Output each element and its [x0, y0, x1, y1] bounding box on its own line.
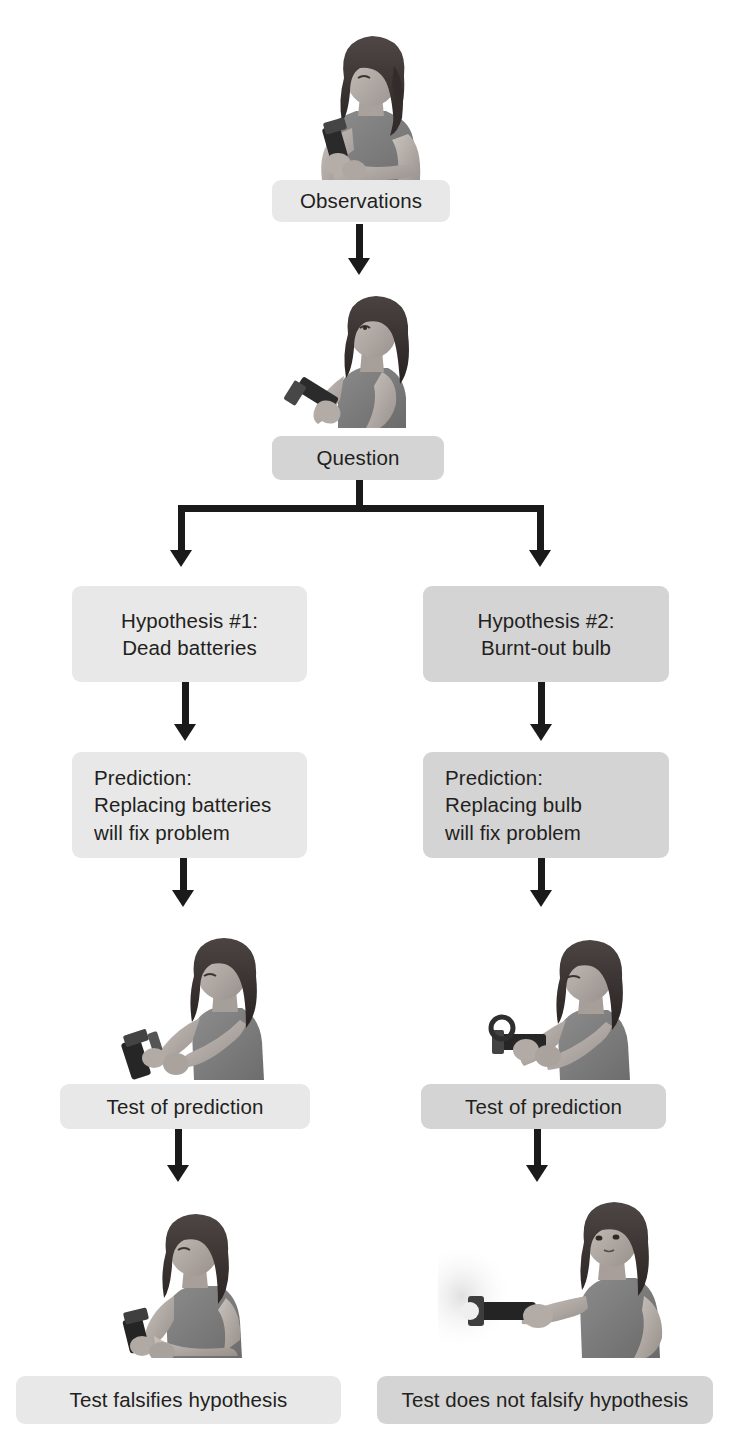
- connector-question-branch-bar: [178, 505, 544, 512]
- illustration-flashlight-off: [112, 1200, 288, 1358]
- connector-hyp1-to-pred1: [182, 682, 189, 730]
- node-hypothesis-2: Hypothesis #2: Burnt-out bulb: [423, 586, 669, 682]
- node-result-not-falsified: Test does not falsify hypothesis: [377, 1376, 713, 1424]
- node-question: Question: [272, 436, 444, 480]
- arrowhead-result-1: [167, 1165, 189, 1182]
- illustration-thinking: [262, 288, 432, 428]
- illustration-flashlight-on: [438, 1192, 678, 1358]
- node-test-of-prediction-2: Test of prediction: [421, 1084, 666, 1129]
- connector-hyp2-to-pred2: [538, 682, 545, 730]
- arrowhead-observations: [348, 258, 370, 275]
- arrowhead-hypothesis-1: [170, 550, 192, 567]
- arrowhead-prediction-2: [530, 724, 552, 741]
- arrowhead-result-2: [526, 1165, 548, 1182]
- node-observations: Observations: [272, 180, 450, 222]
- connector-observations-to-question: [356, 224, 363, 262]
- connector-branch-right: [537, 508, 544, 554]
- connector-branch-left: [178, 508, 185, 554]
- arrowhead-test-1: [172, 890, 194, 907]
- illustration-replacing-bulb: [480, 928, 660, 1080]
- node-prediction-2: Prediction: Replacing bulb will fix prob…: [423, 752, 669, 858]
- illustration-replacing-batteries: [120, 928, 300, 1080]
- node-prediction-1: Prediction: Replacing batteries will fix…: [72, 752, 307, 858]
- scientific-method-flowchart: Observations: [0, 0, 729, 1455]
- connector-question-stem: [356, 480, 363, 508]
- arrowhead-test-2: [530, 890, 552, 907]
- node-hypothesis-1: Hypothesis #1: Dead batteries: [72, 586, 307, 682]
- arrowhead-prediction-1: [174, 724, 196, 741]
- illustration-observing: [282, 22, 442, 180]
- arrowhead-hypothesis-2: [529, 550, 551, 567]
- node-result-falsifies: Test falsifies hypothesis: [16, 1376, 341, 1424]
- node-test-of-prediction-1: Test of prediction: [60, 1084, 310, 1129]
